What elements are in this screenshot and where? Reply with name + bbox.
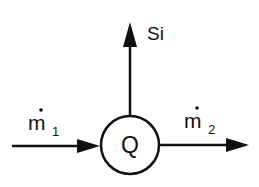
si-arrow bbox=[123, 22, 137, 116]
inflow-arrow bbox=[12, 139, 100, 153]
inflow-label-main: m bbox=[28, 111, 46, 134]
outflow-arrow bbox=[160, 138, 249, 152]
node-q: Q bbox=[101, 116, 159, 174]
inflow-arrowhead-icon bbox=[77, 139, 100, 153]
outflow-label: m 2 bbox=[184, 106, 215, 137]
inflow-label-sub: 1 bbox=[52, 124, 59, 139]
si-arrowhead-icon bbox=[123, 22, 137, 47]
outflow-label-main: m bbox=[184, 109, 202, 132]
outflow-label-sub: 2 bbox=[208, 122, 215, 137]
node-label: Q bbox=[121, 132, 139, 158]
flow-diagram: Si m 1 Q m 2 bbox=[0, 0, 259, 187]
inflow-label: m 1 bbox=[28, 108, 59, 139]
outflow-arrowhead-icon bbox=[226, 138, 249, 152]
si-label: Si bbox=[147, 23, 164, 44]
